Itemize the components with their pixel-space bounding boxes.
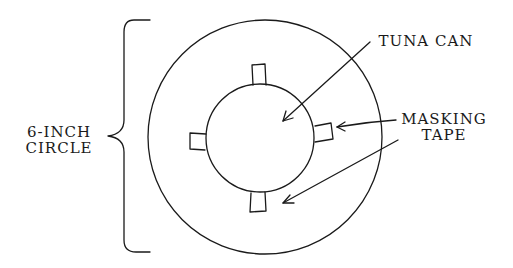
tape-left: [190, 133, 206, 150]
diagram-canvas: 6-INCH CIRCLE TUNA CAN MASKING TAPE: [0, 0, 513, 268]
curly-brace: [108, 20, 150, 252]
label-6-inch-line1: 6-INCH: [24, 124, 94, 140]
label-circle-line2: CIRCLE: [24, 140, 94, 156]
arrow-tuna-can: [283, 42, 370, 121]
label-tuna-can: TUNA CAN: [376, 33, 476, 49]
tape-top: [252, 64, 266, 85]
label-tuna-can-text: TUNA CAN: [376, 33, 476, 49]
label-tape-line2: TAPE: [396, 127, 492, 143]
label-6-inch-circle: 6-INCH CIRCLE: [24, 124, 94, 156]
tape-bottom: [250, 192, 266, 212]
arrow-masking-tape-bottom: [283, 140, 398, 203]
arrow-masking-tape-right: [337, 120, 396, 131]
label-masking-tape: MASKING TAPE: [396, 111, 492, 143]
label-masking-line1: MASKING: [396, 111, 492, 127]
tuna-can-circle: [206, 84, 314, 192]
tape-right: [315, 123, 333, 142]
outer-circle: [148, 20, 382, 254]
